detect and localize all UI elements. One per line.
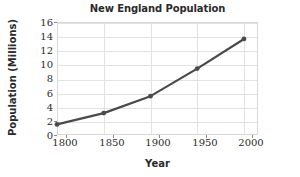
chart-screenshot: New England Population Population (Milli… [0,0,300,177]
y-tickmark-0 [54,135,57,136]
gridline-y-2 [58,122,257,123]
y-tick-label-12: 12 [33,45,53,56]
gridline-x-1950 [197,23,198,134]
x-tick-label-1950: 1950 [185,137,225,148]
y-tick-label-2: 2 [33,116,53,127]
x-tick-label-1850: 1850 [92,137,132,148]
gridline-x-1850 [104,23,105,134]
x-tickmark-2000 [252,135,253,138]
gridline-y-4 [58,108,257,109]
x-tick-label-1800: 1800 [45,137,85,148]
plot-area [57,22,258,135]
gridline-x-1900 [151,23,152,134]
x-tickmark-1800 [66,135,67,138]
gridline-y-14 [58,37,257,38]
gridline-y-16 [58,23,257,24]
y-axis-title: Population (Millions) [7,13,18,143]
gridline-y-10 [58,65,257,66]
gridline-y-6 [58,94,257,95]
x-tick-label-2000: 2000 [231,137,271,148]
gridline-x-2000 [244,23,245,134]
y-tickmark-16 [54,22,57,23]
x-tickmark-1850 [113,135,114,138]
y-tickmark-2 [54,121,57,122]
y-tick-label-8: 8 [33,73,53,84]
x-tickmark-1900 [159,135,160,138]
x-tickmark-1950 [206,135,207,138]
gridline-y-12 [58,51,257,52]
y-tick-label-16: 16 [33,17,53,28]
y-tick-label-4: 4 [33,102,53,113]
y-tick-label-14: 14 [33,31,53,42]
gridline-y-8 [58,80,257,81]
x-axis-title: Year [57,158,258,169]
y-tick-label-10: 10 [33,59,53,70]
x-tick-label-1900: 1900 [138,137,178,148]
chart-title: New England Population [57,3,258,14]
y-tick-label-6: 6 [33,88,53,99]
